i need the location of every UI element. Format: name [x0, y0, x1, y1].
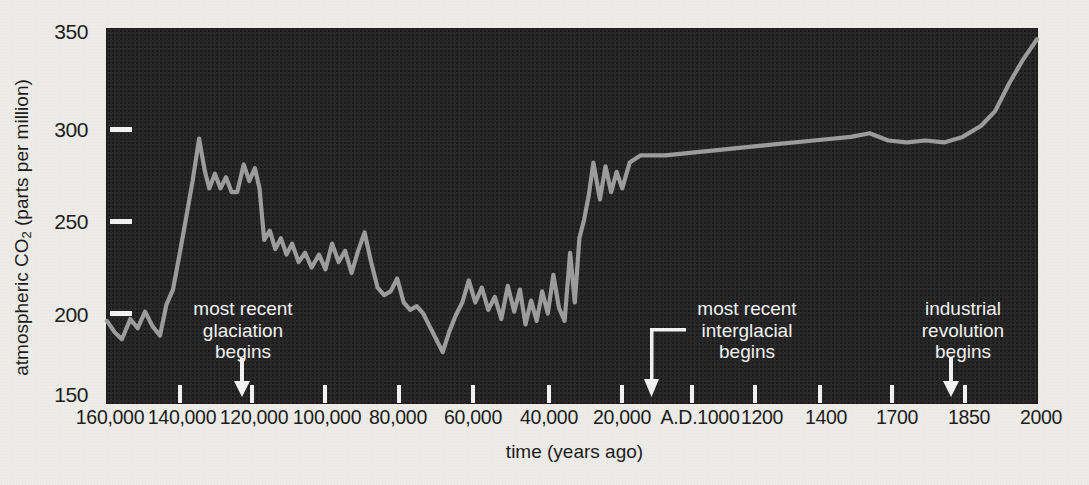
x-tick-mark	[890, 385, 894, 403]
annotation-arrow-industrial	[943, 358, 959, 397]
annotation-arrow-glaciation	[234, 358, 250, 397]
y-tick-mark	[110, 311, 132, 316]
x-tick-mark	[547, 385, 551, 403]
annotation-line: interglacial	[672, 320, 822, 342]
chart-canvas	[0, 0, 1089, 485]
annotation-line: most recent	[672, 298, 822, 320]
y-axis-ticks	[110, 127, 132, 316]
x-tick-mark	[178, 385, 182, 403]
x-tick-mark	[323, 385, 327, 403]
y-tick-mark	[110, 219, 132, 224]
annotation-line: revolution	[903, 320, 1023, 342]
x-tick-mark	[690, 385, 694, 403]
annotation-line: begins	[168, 341, 318, 363]
chart-page: 350 300 250 200 150 160,000 140,000 120,…	[0, 0, 1089, 485]
y-tick-mark	[110, 127, 132, 132]
x-tick-mark	[818, 385, 822, 403]
annotation-line: industrial	[903, 298, 1023, 320]
x-tick-mark	[397, 385, 401, 403]
x-tick-mark	[250, 385, 254, 403]
annotation-line: begins	[672, 341, 822, 363]
x-axis-ticks	[178, 385, 967, 403]
annotation-line: most recent	[168, 298, 318, 320]
annotation-line: begins	[903, 341, 1023, 363]
annotation-most-recent-glaciation: most recent glaciation begins	[168, 298, 318, 363]
annotation-industrial-revolution: industrial revolution begins	[903, 298, 1023, 363]
annotation-most-recent-interglacial: most recent interglacial begins	[672, 298, 822, 363]
x-tick-mark	[471, 385, 475, 403]
x-tick-mark	[963, 385, 967, 403]
x-tick-mark	[620, 385, 624, 403]
annotation-line: glaciation	[168, 320, 318, 342]
x-tick-mark	[753, 385, 757, 403]
